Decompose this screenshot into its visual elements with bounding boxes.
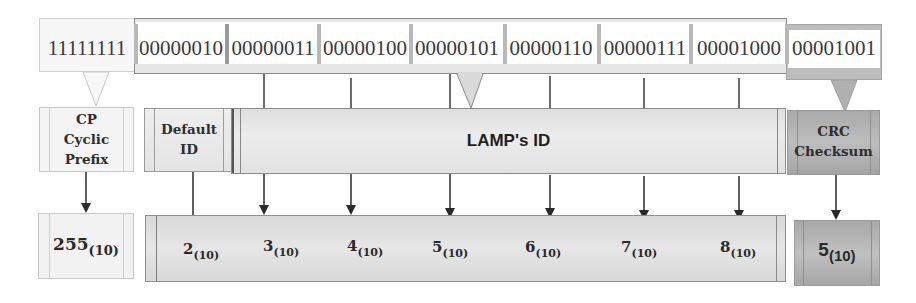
- decimal-number: 3: [263, 237, 273, 255]
- decimal-base: (10): [535, 247, 561, 260]
- decimal-base: (10): [631, 247, 657, 260]
- cp-pointer-icon: [83, 72, 109, 106]
- lamp-id-field-box: LAMP's ID: [231, 108, 786, 174]
- decimal-number: 5: [818, 239, 829, 260]
- cp-decimal-value: 255(10): [39, 234, 133, 254]
- crc-label: CRC Checksum: [788, 121, 879, 161]
- decimal-base: (10): [829, 247, 856, 264]
- id-decimal-box: 2(10) 3(10) 4(10) 5(10) 6(10) 7(10) 8(10…: [145, 215, 786, 282]
- cp-label-line1: CP: [40, 109, 133, 129]
- decimal-number: 7: [621, 238, 631, 256]
- cp-field-label: CP Cyclic Prefix: [40, 109, 133, 169]
- decimal-base: (10): [357, 246, 383, 259]
- decimal-id-8: 8(10): [720, 237, 756, 256]
- crc-pointer-icon: [831, 80, 857, 112]
- decimal-number: 4: [347, 237, 357, 255]
- decimal-number: 5: [432, 238, 442, 256]
- lamp-pointer-icon: [457, 74, 483, 108]
- bit-to-field-lines: [264, 74, 739, 108]
- decimal-number: 6: [525, 238, 535, 256]
- decimal-id-3: 3(10): [263, 236, 299, 255]
- cp-field-box: CP Cyclic Prefix: [39, 107, 134, 172]
- decimal-id-2: 2(10): [183, 239, 219, 258]
- decimal-base: (10): [730, 247, 756, 260]
- default-id-label: Default ID: [145, 119, 233, 159]
- decimal-base: (10): [273, 246, 299, 259]
- decimal-number: 2: [183, 240, 193, 258]
- decimal-number: 8: [720, 238, 730, 256]
- decimal-id-6: 6(10): [525, 237, 561, 256]
- decimal-id-5: 5(10): [432, 237, 468, 256]
- lamp-id-label: LAMP's ID: [232, 131, 785, 151]
- decimal-id-4: 4(10): [347, 236, 383, 255]
- crc-decimal-value: 5(10): [795, 239, 879, 261]
- crc-field-box: CRC Checksum: [787, 110, 880, 175]
- crc-label-line2: Checksum: [788, 141, 879, 161]
- default-id-line2: ID: [145, 139, 233, 159]
- default-id-line1: Default: [145, 119, 233, 139]
- decimal-id-7: 7(10): [621, 237, 657, 256]
- cp-label-line3: Prefix: [40, 149, 133, 169]
- box-inner-line: [156, 216, 157, 281]
- crc-label-line1: CRC: [788, 121, 879, 141]
- cp-label-line2: Cyclic: [40, 129, 133, 149]
- decimal-base: (10): [193, 249, 219, 262]
- decimal-number: 255: [53, 234, 89, 254]
- decimal-base: (10): [442, 247, 468, 260]
- crc-decimal-box: 5(10): [794, 220, 880, 286]
- cp-decimal-box: 255(10): [38, 213, 134, 279]
- box-inner-line: [776, 216, 777, 281]
- decimal-base: (10): [89, 243, 119, 258]
- default-id-field-box: Default ID: [144, 108, 234, 172]
